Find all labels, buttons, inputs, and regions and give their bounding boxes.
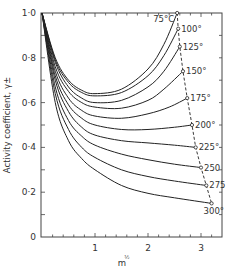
x-tick-label: 2: [145, 243, 151, 253]
curve-label-225: 225°: [199, 142, 219, 152]
curve-label-175: 175°: [190, 93, 210, 103]
y-tick-label: 0·4: [22, 142, 37, 152]
endpoint-marker: [186, 97, 189, 100]
curve-label-200: 200°: [195, 120, 215, 130]
endpoint-marker: [199, 166, 202, 169]
endpoint-marker: [177, 27, 180, 30]
x-tick-label: 1: [92, 243, 98, 253]
endpoint-marker: [178, 45, 181, 48]
curve-label-150: 150°: [186, 66, 206, 76]
y-tick-label: 0: [30, 232, 36, 242]
endpoint-marker: [194, 146, 197, 149]
curve-label-275: 275: [209, 180, 225, 190]
endpoint-marker: [176, 11, 179, 14]
curve-label-100: 100°: [181, 24, 201, 34]
curve-label-300: 300°: [204, 206, 224, 216]
curve-label-125: 125°: [183, 42, 203, 52]
y-tick-label: 0·8: [22, 53, 37, 63]
curve-label-75: 75°C: [153, 14, 174, 24]
y-tick-label: 0·6: [22, 98, 37, 108]
endpoint-marker: [205, 184, 208, 187]
x-tick-label: 3: [198, 243, 204, 253]
y-tick-label: 1·0: [22, 8, 37, 18]
activity-coefficient-chart: 75°C100°125°150°175°200°225°250275300° 1…: [0, 0, 228, 272]
endpoint-marker: [181, 70, 184, 73]
curves: [42, 11, 213, 205]
curve-label-250: 250: [204, 163, 220, 173]
curve-100: [42, 13, 178, 96]
endpoint-marker: [210, 202, 213, 205]
axis-labels: 12300·20·40·60·81·0m½Activity coefficien…: [2, 8, 204, 268]
y-axis-title: Activity coefficient, γ±: [2, 77, 12, 173]
curve-250: [42, 13, 201, 168]
endpoint-marker: [190, 123, 193, 126]
x-axis-exponent: ½: [124, 254, 129, 260]
y-tick-label: 0·2: [22, 187, 36, 197]
